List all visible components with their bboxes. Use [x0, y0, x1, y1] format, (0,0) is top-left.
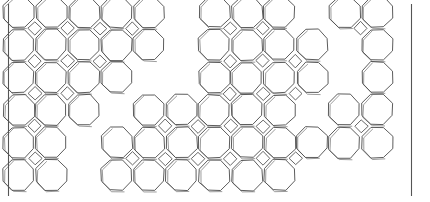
drawing-canvas — [0, 0, 430, 202]
octagon-tiling-figure — [0, 0, 430, 202]
